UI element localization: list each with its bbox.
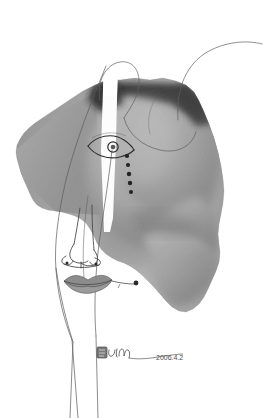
tear-dot bbox=[126, 163, 130, 167]
lips-stem-knob bbox=[134, 281, 139, 286]
tear-dot bbox=[125, 154, 129, 158]
artwork-canvas: Untitled face collage bbox=[0, 0, 266, 418]
signature-date: 2006.4.2 bbox=[156, 354, 183, 361]
tear-dot bbox=[129, 190, 133, 194]
tear-dot bbox=[128, 181, 132, 185]
artwork-illustration: 2006.4.2 bbox=[0, 0, 266, 418]
tear-dot bbox=[127, 172, 131, 176]
eye-pupil bbox=[111, 145, 116, 150]
